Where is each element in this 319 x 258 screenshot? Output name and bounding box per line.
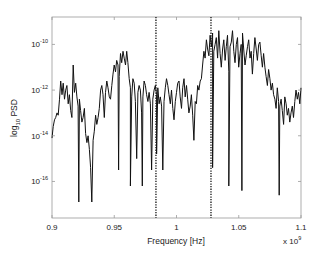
x-tick-label: 1.05	[231, 223, 247, 232]
x-tick-label: 0.9	[46, 223, 58, 232]
axes-box	[52, 17, 301, 218]
x-tick-label: 1.1	[295, 223, 307, 232]
x-multiplier-base: x 10	[283, 237, 299, 246]
x-multiplier-exponent: 9	[298, 235, 301, 241]
psd-chart: 0.90.9511.051.1 10-1010-1210-1410-16 Fre…	[0, 0, 319, 258]
y-label-rest: PSD	[9, 99, 19, 119]
x-tick-label: 1	[174, 223, 179, 232]
x-tick-label: 0.95	[106, 223, 122, 232]
plot-area: 0.90.9511.051.1 10-1010-1210-1410-16	[31, 17, 307, 232]
x-axis-label: Frequency [Hz]	[147, 236, 205, 246]
y-label-log: log	[9, 125, 19, 137]
